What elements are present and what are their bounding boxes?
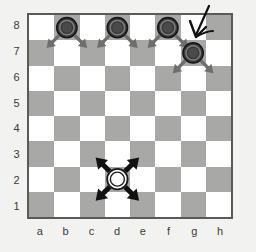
board-grid	[29, 15, 231, 217]
rank-label-8: 8	[8, 13, 25, 39]
board-square-g1[interactable]	[181, 192, 206, 217]
board-square-g5[interactable]	[181, 91, 206, 116]
board-square-c3[interactable]	[80, 141, 105, 166]
file-label-f: f	[156, 222, 182, 240]
file-label-b: b	[53, 222, 79, 240]
board-square-d4[interactable]	[105, 116, 130, 141]
file-label-h: h	[207, 222, 233, 240]
board-square-e8[interactable]	[130, 15, 155, 40]
file-label-a: a	[27, 222, 53, 240]
file-label-e: e	[130, 222, 156, 240]
board-square-b3[interactable]	[54, 141, 79, 166]
board-square-e6[interactable]	[130, 66, 155, 91]
board-square-h4[interactable]	[206, 116, 231, 141]
board-square-a2[interactable]	[29, 167, 54, 192]
board-square-d6[interactable]	[105, 66, 130, 91]
board-square-c8[interactable]	[80, 15, 105, 40]
rank-label-3: 3	[8, 142, 25, 168]
board-square-e5[interactable]	[130, 91, 155, 116]
board-square-e4[interactable]	[130, 116, 155, 141]
board-square-a5[interactable]	[29, 91, 54, 116]
rank-label-1: 1	[8, 193, 25, 219]
board-square-b2[interactable]	[54, 167, 79, 192]
board-square-h5[interactable]	[206, 91, 231, 116]
board-square-f7[interactable]	[155, 40, 180, 65]
board-square-d3[interactable]	[105, 141, 130, 166]
file-label-row: a b c d e f g h	[27, 222, 233, 240]
board-square-c4[interactable]	[80, 116, 105, 141]
board-square-a4[interactable]	[29, 116, 54, 141]
board-square-h2[interactable]	[206, 167, 231, 192]
rank-label-column: 8 7 6 5 4 3 2 1	[8, 13, 25, 219]
board-square-g8[interactable]	[181, 15, 206, 40]
checkers-board	[27, 13, 233, 219]
board-square-h3[interactable]	[206, 141, 231, 166]
board-square-d7[interactable]	[105, 40, 130, 65]
board-square-c5[interactable]	[80, 91, 105, 116]
board-square-e3[interactable]	[130, 141, 155, 166]
board-square-h8[interactable]	[206, 15, 231, 40]
board-square-b7[interactable]	[54, 40, 79, 65]
board-square-c2[interactable]	[80, 167, 105, 192]
rank-label-4: 4	[8, 116, 25, 142]
board-square-a3[interactable]	[29, 141, 54, 166]
board-square-h1[interactable]	[206, 192, 231, 217]
board-square-b8[interactable]	[54, 15, 79, 40]
board-square-g6[interactable]	[181, 66, 206, 91]
board-square-f3[interactable]	[155, 141, 180, 166]
board-square-c6[interactable]	[80, 66, 105, 91]
board-square-a8[interactable]	[29, 15, 54, 40]
board-square-f2[interactable]	[155, 167, 180, 192]
file-label-d: d	[104, 222, 130, 240]
board-square-a6[interactable]	[29, 66, 54, 91]
board-square-f8[interactable]	[155, 15, 180, 40]
board-square-b4[interactable]	[54, 116, 79, 141]
board-square-e1[interactable]	[130, 192, 155, 217]
board-square-c7[interactable]	[80, 40, 105, 65]
board-square-f5[interactable]	[155, 91, 180, 116]
board-square-e2[interactable]	[130, 167, 155, 192]
rank-label-5: 5	[8, 90, 25, 116]
board-square-g3[interactable]	[181, 141, 206, 166]
file-label-g: g	[182, 222, 208, 240]
board-square-d1[interactable]	[105, 192, 130, 217]
board-square-g2[interactable]	[181, 167, 206, 192]
file-label-c: c	[79, 222, 105, 240]
rank-label-6: 6	[8, 65, 25, 91]
board-square-h6[interactable]	[206, 66, 231, 91]
board-square-b6[interactable]	[54, 66, 79, 91]
board-square-d8[interactable]	[105, 15, 130, 40]
board-square-f4[interactable]	[155, 116, 180, 141]
board-square-g4[interactable]	[181, 116, 206, 141]
diagram-root: 8 7 6 5 4 3 2 1 a b c d e f g h	[0, 0, 256, 252]
board-square-b5[interactable]	[54, 91, 79, 116]
board-square-f6[interactable]	[155, 66, 180, 91]
board-square-d5[interactable]	[105, 91, 130, 116]
board-square-c1[interactable]	[80, 192, 105, 217]
board-square-d2[interactable]	[105, 167, 130, 192]
board-square-f1[interactable]	[155, 192, 180, 217]
board-square-e7[interactable]	[130, 40, 155, 65]
board-square-a7[interactable]	[29, 40, 54, 65]
rank-label-7: 7	[8, 39, 25, 65]
board-square-b1[interactable]	[54, 192, 79, 217]
board-square-g7[interactable]	[181, 40, 206, 65]
board-square-h7[interactable]	[206, 40, 231, 65]
rank-label-2: 2	[8, 168, 25, 194]
board-square-a1[interactable]	[29, 192, 54, 217]
